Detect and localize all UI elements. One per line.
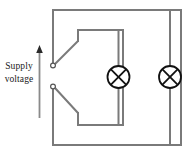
supply-voltage-label-line1: Supply xyxy=(1,60,37,73)
supply-voltage-arrow-icon xyxy=(36,45,43,118)
lower-switch-terminal-icon[interactable] xyxy=(51,84,56,89)
switch-terminals xyxy=(51,63,56,89)
upper-switch-arm[interactable] xyxy=(55,41,78,64)
switch-arms xyxy=(55,41,78,113)
lower-switch-arm[interactable] xyxy=(55,88,78,113)
supply-voltage-label: Supply voltage xyxy=(1,60,37,85)
supply-arrow-head xyxy=(36,45,43,53)
circuit-diagram: Supply voltage xyxy=(0,0,195,159)
lamp-2 xyxy=(159,10,181,145)
supply-voltage-label-line2: voltage xyxy=(1,73,37,86)
upper-switch-terminal-icon[interactable] xyxy=(51,63,56,68)
lamp-1 xyxy=(108,30,130,125)
